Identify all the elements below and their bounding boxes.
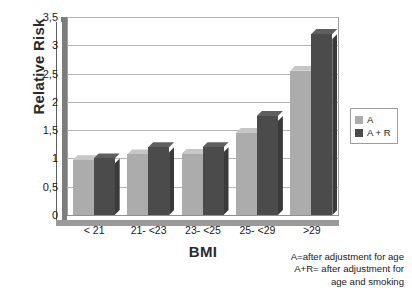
bar-group — [236, 17, 283, 215]
bar-a — [127, 154, 148, 215]
bar-ar — [257, 116, 278, 215]
y-tick-label: 0 — [52, 209, 58, 221]
legend-label-a: A — [367, 114, 373, 125]
bar-side — [332, 34, 337, 215]
y-tick-label: 2 — [52, 96, 58, 108]
bar-a — [73, 160, 94, 215]
bar-group — [290, 17, 337, 215]
x-tick-label: 21- <23 — [131, 224, 167, 236]
bar-face — [182, 154, 203, 215]
x-tick-label: >29 — [303, 224, 321, 236]
legend-swatch-a — [355, 116, 363, 124]
legend-item-a: A — [355, 113, 391, 126]
bar-face — [290, 71, 311, 215]
bar-group — [182, 17, 229, 215]
footnote-line-3: age and smoking — [194, 276, 404, 288]
bar-side — [115, 158, 120, 215]
bar-side — [169, 147, 174, 215]
x-tick-label: 23- <25 — [185, 224, 221, 236]
bar-a — [236, 133, 257, 215]
bar-face — [236, 133, 257, 215]
bar-face — [203, 147, 224, 215]
bar-a — [290, 71, 311, 215]
bar-chart-figure: Relative Risk 00,511,522,533,5 < 2121- <… — [0, 0, 412, 300]
bar-group — [73, 17, 120, 215]
bars-layer — [67, 17, 339, 215]
x-axis-ticks: < 2121- <2323- <2525- <29>29 — [67, 224, 339, 240]
footnote-line-1: A=after adjustment for age — [194, 251, 404, 263]
legend-item-ar: A + R — [355, 126, 391, 139]
bar-ar — [203, 147, 224, 215]
bar-top — [257, 111, 283, 116]
legend-swatch-ar — [355, 129, 363, 137]
bar-face — [311, 34, 332, 215]
bar-top — [94, 153, 120, 158]
y-tick-label: 2,5 — [43, 68, 58, 80]
gridline — [67, 215, 339, 216]
bar-group — [127, 17, 174, 215]
bar-face — [127, 154, 148, 215]
bar-ar — [311, 34, 332, 215]
bar-side — [224, 147, 229, 215]
y-tick-label: 3,5 — [43, 11, 58, 23]
x-tick-label: 25- <29 — [239, 224, 275, 236]
bar-face — [73, 160, 94, 215]
chart-footnote: A=after adjustment for age A+R= after ad… — [194, 251, 404, 288]
chart-legend: A A + R — [350, 108, 398, 144]
y-tick-label: 0,5 — [43, 181, 58, 193]
bar-ar — [94, 158, 115, 215]
bar-top — [148, 142, 174, 147]
x-tick-label: < 21 — [84, 224, 105, 236]
plot-area: 00,511,522,533,5 — [67, 17, 339, 215]
bar-ar — [148, 147, 169, 215]
legend-label-ar: A + R — [367, 127, 391, 138]
y-tick-label: 1 — [52, 152, 58, 164]
y-tick-label: 3 — [52, 39, 58, 51]
bar-face — [257, 116, 278, 215]
bar-face — [148, 147, 169, 215]
bar-top — [311, 29, 337, 34]
bar-side — [278, 116, 283, 215]
bar-top — [203, 142, 229, 147]
y-tick-label: 1,5 — [43, 124, 58, 136]
bar-a — [182, 154, 203, 215]
bar-face — [94, 158, 115, 215]
footnote-line-2: A+R= after adjustment for — [194, 263, 404, 275]
